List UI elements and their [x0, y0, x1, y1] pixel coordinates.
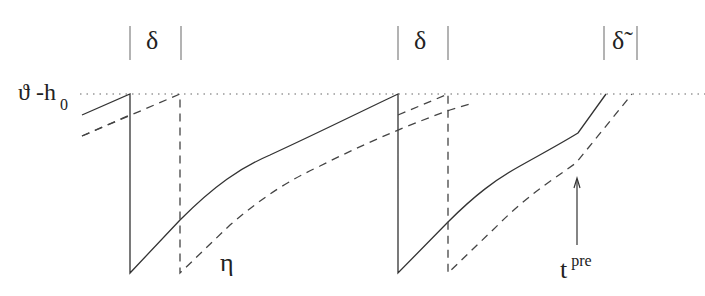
solid-trajectory	[82, 94, 606, 273]
t-pre-superscript: pre	[571, 252, 591, 269]
threshold-label: ϑ -h0	[18, 79, 64, 106]
delta-label-2: δ	[414, 26, 426, 56]
t-pre-label: tpre	[560, 255, 588, 285]
threshold-label-subscript: 0	[60, 96, 68, 113]
refractory-bars	[130, 26, 637, 60]
t-pre-arrow	[574, 178, 580, 245]
diagram-canvas	[0, 0, 705, 296]
threshold-label-main: ϑ -h	[18, 79, 56, 105]
delta-label-1: δ	[146, 26, 158, 56]
eta-label: η	[220, 248, 234, 278]
delta-tilde-label: δ̃	[612, 26, 624, 56]
t-pre-main: t	[560, 255, 567, 284]
dashed-trajectory	[82, 94, 470, 273]
dashed-trajectory-2	[398, 94, 632, 273]
